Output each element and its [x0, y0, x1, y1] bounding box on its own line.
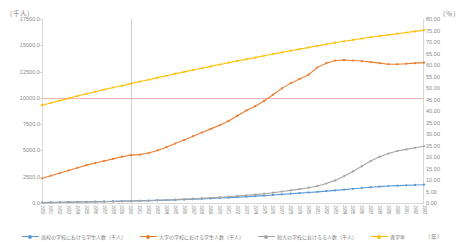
x-axis-tick: 1959	[119, 205, 124, 214]
x-axis-tick: 1976	[270, 205, 275, 214]
data-point-marker	[361, 165, 363, 167]
data-point-marker	[227, 62, 229, 64]
data-point-marker	[316, 45, 318, 47]
data-point-marker	[165, 199, 167, 201]
data-point-marker	[281, 190, 283, 192]
data-point-marker	[219, 63, 221, 65]
data-point-marker	[59, 172, 61, 174]
data-point-marker	[352, 39, 354, 41]
x-axis-tick: 1950	[40, 205, 45, 214]
data-point-marker	[352, 59, 354, 61]
left-axis-tickmark	[40, 72, 42, 73]
legend-item-2[interactable]: 短大の学校におけるる人数（千人）	[258, 233, 357, 240]
data-point-marker	[112, 200, 114, 202]
data-point-marker	[378, 62, 380, 64]
circle-marker-icon	[371, 234, 388, 240]
data-point-marker	[378, 35, 380, 37]
x-axis-tick: 1991	[404, 205, 409, 214]
data-point-marker	[156, 77, 158, 79]
data-point-marker	[281, 87, 283, 89]
data-point-marker	[103, 201, 105, 203]
data-point-marker	[139, 200, 141, 202]
data-point-marker	[219, 124, 221, 126]
data-point-marker	[334, 42, 336, 44]
data-point-marker	[290, 50, 292, 52]
data-point-marker	[227, 196, 229, 198]
data-point-marker	[361, 37, 363, 39]
data-point-marker	[325, 182, 327, 184]
data-point-marker	[378, 185, 380, 187]
data-point-marker	[272, 94, 274, 96]
data-point-marker	[387, 185, 389, 187]
legend-item-3[interactable]: 進学率	[371, 233, 405, 240]
data-point-marker	[50, 102, 52, 104]
data-point-marker	[76, 201, 78, 203]
data-point-marker	[343, 40, 345, 42]
data-point-marker	[414, 147, 416, 149]
data-point-marker	[263, 55, 265, 57]
data-point-marker	[121, 85, 123, 87]
data-point-marker	[343, 188, 345, 190]
data-point-marker	[130, 154, 132, 156]
data-point-marker	[85, 201, 87, 203]
x-axis-tick: 1951	[48, 205, 53, 214]
data-point-marker	[165, 75, 167, 77]
x-axis-tick: 1968	[199, 205, 204, 214]
legend-item-1[interactable]: 大学の学校における学生人数（千人）	[140, 233, 244, 240]
x-axis-tick: 1955	[84, 205, 89, 214]
data-point-marker	[103, 88, 105, 90]
data-point-marker	[387, 152, 389, 154]
legend-item-0[interactable]: 高校の学校における学生人数（千人）	[22, 233, 126, 240]
data-point-marker	[405, 148, 407, 150]
data-point-marker	[298, 48, 300, 50]
x-axis-tick: 1957	[102, 205, 107, 214]
data-point-marker	[290, 189, 292, 191]
data-point-marker	[272, 194, 274, 196]
data-point-marker	[387, 34, 389, 36]
data-point-marker	[156, 149, 158, 151]
data-point-marker	[272, 53, 274, 55]
data-point-marker	[396, 150, 398, 152]
data-point-marker	[219, 196, 221, 198]
x-axis-tick: 1985	[350, 205, 355, 214]
x-axis-tick: 1993	[422, 205, 427, 214]
data-point-marker	[316, 191, 318, 193]
data-point-marker	[370, 61, 372, 63]
data-point-marker	[290, 82, 292, 84]
data-point-marker	[378, 156, 380, 158]
x-axis-tick: 1986	[359, 205, 364, 214]
data-point-marker	[396, 33, 398, 35]
x-axis-tick: 1967	[191, 205, 196, 214]
data-point-marker	[183, 71, 185, 73]
data-point-marker	[370, 36, 372, 38]
data-point-marker	[130, 200, 132, 202]
data-point-marker	[174, 142, 176, 144]
x-axis-tick: 1972	[235, 205, 240, 214]
data-point-marker	[281, 51, 283, 53]
x-axis-tick: 1979	[297, 205, 302, 214]
x-axis-tick: 1966	[182, 205, 187, 214]
data-point-marker	[387, 63, 389, 65]
data-point-marker	[307, 191, 309, 193]
data-point-marker	[298, 192, 300, 194]
data-point-marker	[423, 145, 425, 147]
x-axis-tick: 1980	[306, 205, 311, 214]
series-line	[42, 60, 424, 178]
data-point-marker	[201, 197, 203, 199]
data-point-marker	[334, 189, 336, 191]
data-point-marker	[139, 153, 141, 155]
data-point-marker	[414, 62, 416, 64]
data-point-marker	[227, 120, 229, 122]
data-point-marker	[147, 152, 149, 154]
x-axis-tick: 1958	[111, 205, 116, 214]
data-point-marker	[147, 79, 149, 81]
data-point-marker	[298, 188, 300, 190]
x-axis-tick: 1990	[395, 205, 400, 214]
data-point-marker	[307, 187, 309, 189]
left-axis-tickmark	[40, 98, 42, 99]
x-axis-tick: 1989	[386, 205, 391, 214]
data-point-marker	[130, 82, 132, 84]
data-point-marker	[76, 95, 78, 97]
x-axis-tick: 1960	[128, 205, 133, 214]
x-axis-tick: 1988	[377, 205, 382, 214]
